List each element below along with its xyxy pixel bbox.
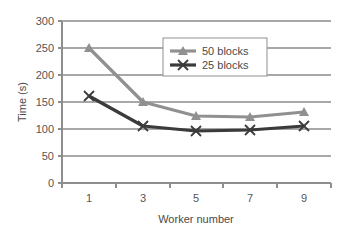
x-axis-title: Worker number (158, 213, 234, 225)
y-axis-title: Time (s) (16, 82, 28, 122)
x-tick-label-1: 1 (86, 192, 92, 204)
x-tick-label-9: 9 (301, 192, 307, 204)
x-tick-label-3: 3 (140, 192, 146, 204)
chart-container: 300 250 200 150 100 50 0 1 3 5 7 9 Worke… (0, 0, 344, 244)
chart-legend: 50 blocks 25 blocks (163, 38, 267, 76)
y-tick-label-50: 50 (42, 150, 54, 162)
line-chart: 300 250 200 150 100 50 0 1 3 5 7 9 Worke… (0, 0, 344, 244)
x-tick-label-5: 5 (193, 192, 199, 204)
legend-label-25-blocks: 25 blocks (202, 59, 249, 71)
y-tick-label-200: 200 (36, 69, 54, 81)
x-tick-label-7: 7 (247, 192, 253, 204)
chart-background (0, 0, 344, 244)
y-tick-label-100: 100 (36, 123, 54, 135)
y-tick-label-250: 250 (36, 42, 54, 54)
y-tick-label-0: 0 (48, 177, 54, 189)
y-tick-label-300: 300 (36, 15, 54, 27)
legend-label-50-blocks: 50 blocks (202, 45, 249, 57)
y-tick-label-150: 150 (36, 96, 54, 108)
